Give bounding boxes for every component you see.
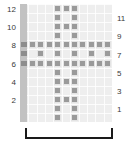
grid-cell-marker	[72, 33, 77, 38]
bracket-bar	[25, 137, 113, 139]
grid-cell-marker	[64, 24, 69, 29]
grid-cell-marker	[55, 61, 60, 66]
grid-cell-marker	[47, 61, 52, 66]
grid-cell-marker	[64, 61, 69, 66]
grid-cell-marker	[72, 61, 77, 66]
grid-cell-marker	[55, 6, 60, 11]
grid-cell-marker	[55, 106, 60, 111]
grid-cell-marker	[80, 42, 85, 47]
grid-cell-marker	[55, 70, 60, 75]
grid-cell-marker	[97, 42, 102, 47]
grid-cell-marker	[72, 42, 77, 47]
grid-cell-marker	[38, 42, 43, 47]
left-axis-tick: 2	[0, 97, 18, 105]
right-axis: 11 9 7 5 3 1	[114, 0, 132, 126]
grid-cell-marker	[72, 15, 77, 20]
grid-cell-marker	[64, 97, 69, 102]
left-axis-tick: 8	[0, 42, 18, 50]
grid-cell-marker	[30, 42, 35, 47]
grid-cell-marker	[21, 61, 27, 66]
grid-cell-marker	[72, 24, 77, 29]
grid-cell-marker	[55, 115, 60, 120]
grid-cell-marker	[21, 42, 27, 47]
grid-cell-marker	[72, 106, 77, 111]
grid-cell-marker	[55, 97, 60, 102]
grid-cell-marker	[30, 61, 35, 66]
left-axis: 12 10 8 6 4 2	[0, 0, 18, 126]
grid-cell-marker	[105, 51, 110, 56]
grid-cell-marker	[80, 61, 85, 66]
grid-cell-marker	[105, 61, 110, 66]
right-axis-tick: 11	[114, 15, 132, 23]
grid-cell-marker	[55, 42, 60, 47]
grid-cell-marker	[55, 24, 60, 29]
bracket-arm-right	[111, 128, 113, 139]
grid-cell-marker	[38, 61, 43, 66]
grid-cell-marker	[105, 42, 110, 47]
grid-cell-marker	[72, 88, 77, 93]
right-axis-tick: 3	[114, 88, 132, 96]
grid-cell-marker	[97, 61, 102, 66]
grid-cell-marker	[64, 42, 69, 47]
grid-area	[20, 4, 112, 122]
right-axis-tick: 7	[114, 52, 132, 60]
grid-cell-marker	[38, 51, 43, 56]
grid-cell-marker	[64, 79, 69, 84]
left-axis-tick: 10	[0, 24, 18, 32]
grid-cell-marker	[47, 42, 52, 47]
right-axis-tick: 5	[114, 70, 132, 78]
grid-cell-marker	[72, 51, 77, 56]
left-axis-tick: 12	[0, 6, 18, 14]
grid-cell-marker	[89, 51, 94, 56]
grid-cell-marker	[89, 61, 94, 66]
grid-cell-marker	[64, 6, 69, 11]
grid-cell-marker	[55, 15, 60, 20]
span-bracket	[25, 127, 113, 139]
grid-cell-marker	[55, 33, 60, 38]
left-axis-tick: 6	[0, 61, 18, 69]
grid-cell-marker	[55, 88, 60, 93]
grid-cell-marker	[72, 97, 77, 102]
grid-cell-marker	[72, 115, 77, 120]
grid-cell-marker	[72, 6, 77, 11]
left-axis-tick: 4	[0, 79, 18, 87]
grid-cell-marker	[55, 79, 60, 84]
grid-cell-marker	[89, 42, 94, 47]
grid-cell-marker	[72, 70, 77, 75]
right-axis-tick: 1	[114, 106, 132, 114]
grid-cell-marker	[55, 51, 60, 56]
figure-container: 12 10 8 6 4 2 11 9 7 5 3 1	[0, 0, 132, 143]
grid-cell-marker	[72, 79, 77, 84]
grid-cell-marker	[21, 51, 27, 56]
right-axis-tick: 9	[114, 33, 132, 41]
